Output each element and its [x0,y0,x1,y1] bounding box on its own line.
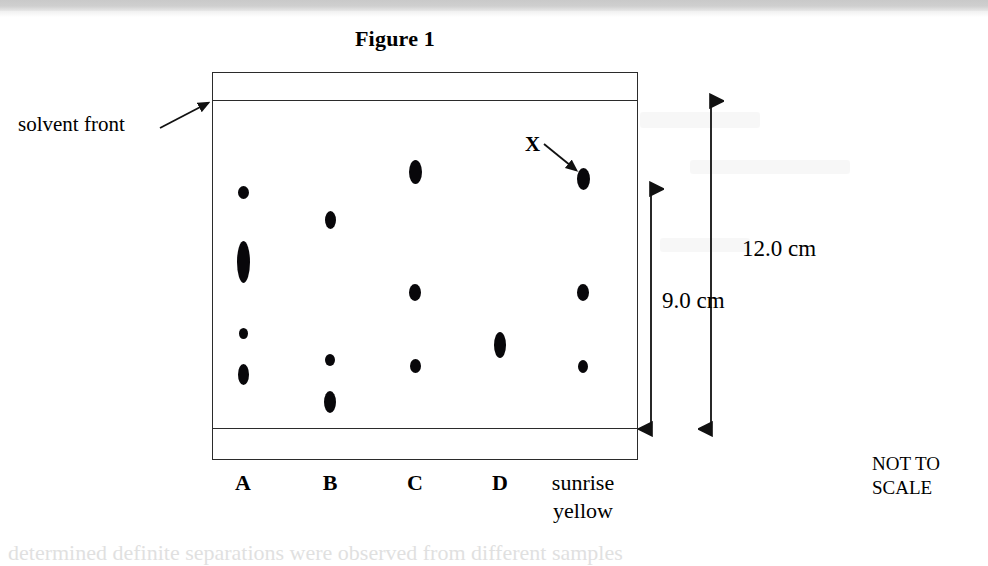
figure-page: Figure 1 solvent front X [0,0,988,566]
not-to-scale-note: NOT TO SCALE [872,452,940,501]
chromatogram-spot [239,328,248,339]
figure-title: Figure 1 [330,26,460,52]
chromatogram-spot [238,186,249,199]
chromatogram-spot [237,241,250,283]
unknown-spot-label: X [525,132,540,157]
not-to-scale-line2: SCALE [872,476,940,500]
cut-off-caption: determined definite separations were obs… [8,540,708,566]
chromatogram-spot [578,360,588,373]
scan-ghost-artifact [690,160,850,174]
chromatogram-spot [409,284,421,301]
chromatogram-spot [238,364,249,385]
not-to-scale-line1: NOT TO [872,452,940,476]
chromatography-plate [212,72,638,460]
chromatogram-spot [325,211,336,229]
dimension-label-12cm: 12.0 cm [742,236,816,262]
dimension-arrow-12cm [698,92,724,438]
chromatogram-spot [494,332,506,358]
scanner-gray-bar-fade [0,11,988,17]
lane-label-SY-line2: yellow [513,498,653,524]
dimension-label-9cm: 9.0 cm [662,288,725,314]
scan-ghost-artifact [660,238,750,252]
scanner-gray-bar [0,0,988,11]
scan-ghost-artifact [640,112,760,128]
chromatogram-spot [410,359,421,373]
solvent-front-line [212,100,638,101]
chromatogram-spot [409,160,422,184]
lane-label-SY: sunrise [513,470,653,496]
chromatogram-spot [325,354,335,366]
dimension-arrow-9cm [638,180,664,438]
solvent-front-label: solvent front [18,112,125,137]
chromatogram-spot [577,284,589,301]
chromatogram-spot [577,168,590,190]
baseline-origin-line [212,428,638,429]
chromatogram-spot [324,391,336,413]
